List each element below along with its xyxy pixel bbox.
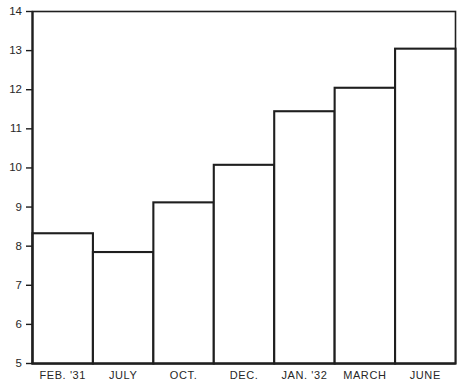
x-tick-label: FEB. '31 <box>39 369 86 381</box>
y-axis-labels: 567891011121314 <box>9 5 22 369</box>
x-tick-label: JULY <box>109 369 138 381</box>
bar <box>153 202 213 363</box>
bar <box>395 49 455 364</box>
x-tick-label: JUNE <box>410 369 441 381</box>
bar <box>33 233 93 363</box>
y-tick-label: 13 <box>9 44 22 56</box>
x-axis-labels: FEB. '31JULYOCT.DEC.JAN. '32MARCHJUNE <box>39 369 440 381</box>
bar <box>274 111 334 363</box>
bar-series <box>33 49 456 364</box>
x-tick-label: DEC. <box>230 369 259 381</box>
x-tick-label: JAN. '32 <box>281 369 327 381</box>
y-tick-label: 14 <box>9 5 22 17</box>
y-tick-label: 6 <box>16 318 22 330</box>
chart-canvas: 567891011121314 FEB. '31JULYOCT.DEC.JAN.… <box>0 0 461 387</box>
bar-chart: 567891011121314 FEB. '31JULYOCT.DEC.JAN.… <box>0 0 461 387</box>
y-tick-label: 5 <box>16 357 22 369</box>
bar <box>93 252 153 363</box>
x-tick-label: MARCH <box>343 369 386 381</box>
y-tick-label: 7 <box>16 279 22 291</box>
bar <box>335 88 395 364</box>
y-tick-label: 12 <box>9 83 22 95</box>
bar <box>214 165 274 364</box>
y-tick-label: 10 <box>9 161 22 173</box>
x-tick-label: OCT. <box>170 369 197 381</box>
y-tick-label: 11 <box>10 122 22 134</box>
y-tick-label: 9 <box>16 201 22 213</box>
y-tick-label: 8 <box>16 240 22 252</box>
